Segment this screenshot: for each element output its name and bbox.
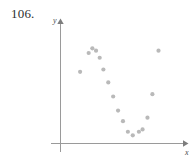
y-axis-arrowhead xyxy=(57,19,63,25)
data-point xyxy=(137,130,141,134)
data-point xyxy=(126,130,130,134)
x-axis-label: x xyxy=(184,148,189,157)
data-point xyxy=(101,67,105,71)
data-point xyxy=(116,109,120,113)
data-point xyxy=(90,46,94,50)
data-point xyxy=(121,119,125,123)
data-point xyxy=(111,94,115,98)
data-point-group xyxy=(78,46,161,137)
data-point xyxy=(98,56,102,60)
data-point xyxy=(78,70,82,74)
scatter-plot-figure: 106. y x xyxy=(0,0,195,164)
data-point xyxy=(131,133,135,137)
data-point xyxy=(145,116,149,120)
data-point xyxy=(140,127,144,131)
x-axis-arrowhead xyxy=(183,140,189,146)
data-point xyxy=(87,51,91,55)
data-point xyxy=(150,92,154,96)
data-point xyxy=(156,49,160,53)
scatter-plot-canvas: y x xyxy=(0,0,195,164)
y-axis-label: y xyxy=(52,16,57,25)
data-point xyxy=(94,49,98,53)
data-point xyxy=(106,80,110,84)
